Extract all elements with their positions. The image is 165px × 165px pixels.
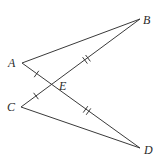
segment-cd xyxy=(21,107,140,148)
segment-ab xyxy=(22,19,140,63)
geometry-diagram: A B C D E xyxy=(0,0,165,165)
point-label-a: A xyxy=(7,56,16,70)
point-label-e: E xyxy=(58,79,67,93)
tick-mark-ce xyxy=(34,93,39,99)
point-label-b: B xyxy=(143,13,151,27)
segment-cb xyxy=(21,19,140,107)
segment-ad xyxy=(22,63,140,148)
point-label-d: D xyxy=(143,143,153,157)
point-label-c: C xyxy=(7,100,16,114)
